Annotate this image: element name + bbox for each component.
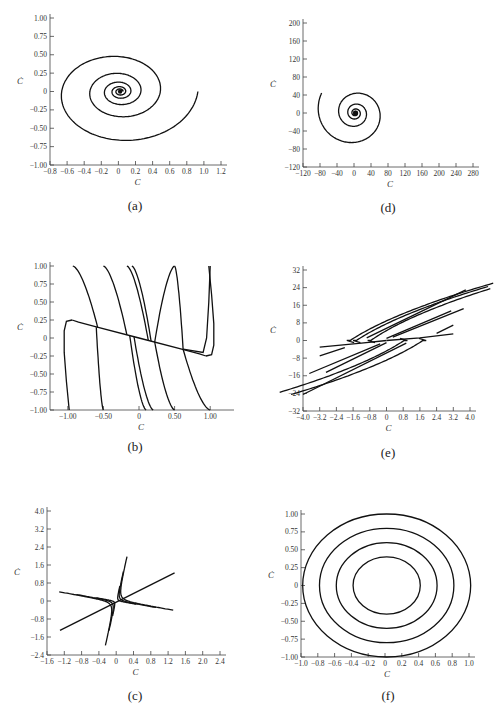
trajectory-curve: [96, 327, 103, 410]
x-axis-label: C: [134, 177, 141, 187]
trajectory-curve: [103, 266, 127, 335]
closed-orbit: [319, 528, 453, 642]
x-tick-label: −0.2: [94, 167, 108, 176]
y-tick-label: 0.8: [35, 579, 45, 588]
y-tick-label: −32: [288, 407, 300, 416]
y-tick-label: −0.75: [281, 635, 299, 644]
x-tick-label: 0.4: [129, 657, 139, 666]
y-tick-label: 0.50: [34, 298, 47, 307]
x-tick-label: 0: [383, 659, 387, 668]
y-tick-label: 1.00: [34, 14, 47, 23]
y-tick-label: −0.75: [30, 388, 48, 397]
y-axis-label: Ċ: [17, 322, 24, 332]
y-tick-label: −1.00: [30, 406, 48, 415]
y-tick-label: −40: [288, 127, 300, 136]
trajectory-curve: [303, 343, 406, 394]
trajectory-curve: [64, 320, 72, 410]
x-tick-label: 2.0: [198, 657, 208, 666]
panel-f: −1.0−0.8−0.6−0.4−0.200.20.40.60.81.01.00…: [268, 510, 475, 704]
x-tick-label: −0.4: [77, 167, 91, 176]
x-tick-label: 40: [367, 169, 375, 178]
y-tick-label: −1.6: [30, 633, 44, 642]
x-tick-label: −3.2: [313, 413, 327, 422]
y-tick-label: 1.00: [285, 510, 298, 519]
x-tick-label: 1.0: [199, 167, 209, 176]
x-tick-label: 0: [385, 413, 389, 422]
panel-caption: (b): [127, 439, 142, 454]
y-tick-label: 4.0: [35, 507, 45, 516]
panel-caption: (a): [128, 198, 142, 213]
x-tick-label: 0.6: [165, 167, 175, 176]
trajectory-curve: [155, 342, 175, 410]
figure-phase-portraits: −0.8−0.6−0.4−0.200.20.40.60.81.01.21.000…: [0, 0, 496, 714]
x-tick-label: 200: [433, 169, 445, 178]
closed-orbit: [353, 557, 420, 614]
trajectory-curve: [280, 338, 408, 392]
trajectory-curve: [183, 349, 210, 410]
y-tick-label: 200: [289, 19, 301, 28]
y-tick-label: 0.75: [285, 527, 298, 536]
x-tick-label: −0.8: [363, 413, 377, 422]
trajectory-curve: [437, 325, 454, 333]
unstable-manifold: [60, 573, 175, 630]
y-tick-label: −0.50: [30, 370, 48, 379]
x-tick-label: 0.50: [168, 412, 181, 421]
y-tick-label: −16: [288, 371, 300, 380]
trajectory-curve: [183, 266, 210, 352]
equilibrium-point: [118, 89, 122, 93]
x-tick-label: 0.6: [431, 659, 441, 668]
x-axis-label: C: [132, 667, 139, 677]
y-tick-label: −0.50: [281, 617, 299, 626]
trajectory-curve: [368, 289, 491, 343]
y-tick-label: 0: [296, 109, 300, 118]
x-tick-label: 0: [137, 412, 141, 421]
x-tick-label: −0.4: [345, 659, 359, 668]
y-tick-label: −0.25: [30, 105, 48, 114]
y-tick-label: 0: [40, 597, 44, 606]
y-tick-label: 16: [293, 301, 301, 310]
x-tick-label: 0.2: [397, 659, 407, 668]
trajectory-curve: [387, 334, 454, 341]
x-tick-label: 0.4: [414, 659, 424, 668]
x-tick-label: −0.50: [95, 412, 113, 421]
x-tick-label: 160: [416, 169, 428, 178]
x-tick-label: −1.6: [346, 413, 360, 422]
y-tick-label: −0.50: [30, 124, 48, 133]
x-axis-label: C: [387, 179, 394, 189]
y-tick-label: −2.4: [30, 651, 44, 660]
y-tick-label: −120: [285, 163, 301, 172]
y-tick-label: 160: [289, 37, 301, 46]
x-axis-label: C: [385, 423, 392, 433]
x-tick-label: 0.8: [448, 659, 458, 668]
y-tick-label: 0: [294, 581, 298, 590]
y-tick-label: 80: [293, 73, 301, 82]
x-axis-label: C: [384, 669, 391, 679]
x-tick-label: 0.4: [148, 167, 158, 176]
x-axis-label: C: [138, 422, 145, 432]
x-tick-label: 80: [384, 169, 392, 178]
y-axis-label: Ċ: [14, 567, 21, 577]
x-tick-label: 0: [117, 167, 121, 176]
x-tick-label: 2.4: [432, 413, 442, 422]
y-axis-label: Ċ: [270, 325, 277, 335]
y-tick-label: 24: [293, 283, 301, 292]
x-tick-label: −0.4: [92, 657, 106, 666]
x-tick-label: 0: [352, 169, 356, 178]
y-tick-label: 3.2: [35, 525, 45, 534]
x-tick-label: 0.8: [182, 167, 192, 176]
y-tick-label: 120: [289, 55, 301, 64]
closed-orbit: [303, 514, 471, 657]
y-tick-label: −1.00: [281, 653, 299, 662]
panel-b: −1.00−0.5000.501.001.000.750.500.250−0.2…: [17, 262, 234, 455]
y-tick-label: 0.75: [34, 32, 47, 41]
y-tick-label: 32: [293, 266, 301, 275]
panel-caption: (e): [381, 445, 395, 460]
spiral-trajectory: [318, 93, 380, 143]
x-tick-label: −80: [314, 169, 326, 178]
x-tick-label: 1.6: [181, 657, 191, 666]
x-tick-label: −0.6: [60, 167, 74, 176]
y-tick-label: 2.4: [35, 543, 45, 552]
y-tick-label: 0.75: [34, 280, 47, 289]
panel-c: −1.6−1.2−0.8−0.400.40.81.21.62.02.44.03.…: [14, 507, 226, 704]
x-tick-label: 0: [114, 657, 118, 666]
